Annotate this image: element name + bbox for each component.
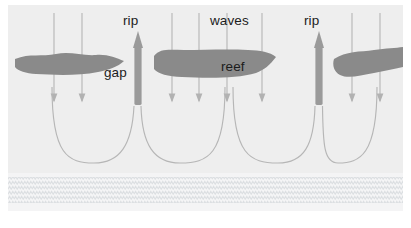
- figure-canvas: rip waves rip gap reef: [0, 0, 411, 228]
- reef-middle: [154, 50, 276, 78]
- rip-current-left: [133, 31, 143, 105]
- diagram-panel: rip waves rip gap reef: [8, 5, 403, 211]
- waves-label: waves: [210, 14, 249, 28]
- feeder-current: [323, 87, 378, 163]
- feeder-current: [233, 87, 315, 163]
- rip-label-right: rip: [304, 14, 319, 28]
- reef-right: [333, 47, 403, 77]
- feeder-current: [141, 87, 225, 163]
- feeder-current: [52, 87, 134, 163]
- rip-label-left: rip: [123, 14, 138, 28]
- rip-current-right: [314, 31, 324, 105]
- reef-group: [15, 47, 403, 78]
- reef-label: reef: [221, 60, 245, 74]
- gap-label: gap: [104, 66, 127, 80]
- beach-band: [8, 173, 403, 211]
- diagram-graphics: [8, 5, 403, 211]
- feeder-current-group: [52, 87, 377, 163]
